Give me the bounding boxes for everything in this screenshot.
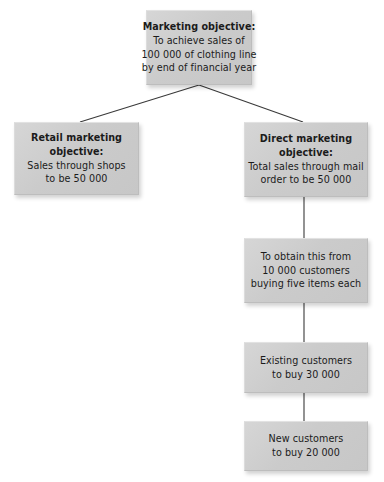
connector-marketing-to-direct (199, 85, 303, 122)
node-line: Direct marketing (260, 132, 352, 146)
node-line: To obtain this from (261, 250, 351, 264)
node-line: Marketing objective: (143, 20, 256, 34)
node-line: objective: (50, 145, 104, 159)
node-line: by end of financial year (142, 61, 256, 75)
node-line: to buy 30 000 (272, 368, 340, 382)
node-line: To achieve sales of (153, 34, 244, 48)
node-marketing-objective[interactable]: Marketing objective: To achieve sales of… (146, 10, 252, 85)
node-line: New customers (269, 432, 344, 446)
node-line: Sales through shops (27, 159, 125, 173)
node-obtain-customers[interactable]: To obtain this from 10 000 customers buy… (244, 238, 368, 303)
node-line: Total sales through mail (248, 160, 363, 174)
node-direct-marketing-objective[interactable]: Direct marketing objective: Total sales … (244, 122, 368, 197)
node-line: 100 000 of clothing line (141, 48, 256, 62)
node-line: order to be 50 000 (261, 173, 352, 187)
node-retail-marketing-objective[interactable]: Retail marketing objective: Sales throug… (14, 122, 139, 195)
node-line: to be 50 000 (46, 172, 108, 186)
node-line: objective: (279, 146, 333, 160)
node-line: buying five items each (251, 277, 361, 291)
node-line: to buy 20 000 (272, 446, 340, 460)
node-line: 10 000 customers (262, 264, 350, 278)
node-existing-customers[interactable]: Existing customers to buy 30 000 (244, 342, 368, 393)
node-line: Retail marketing (31, 131, 122, 145)
connector-marketing-to-retail (80, 85, 199, 122)
objectives-hierarchy-diagram: Marketing objective: To achieve sales of… (0, 0, 384, 482)
node-line: Existing customers (260, 354, 352, 368)
node-new-customers[interactable]: New customers to buy 20 000 (244, 421, 368, 471)
